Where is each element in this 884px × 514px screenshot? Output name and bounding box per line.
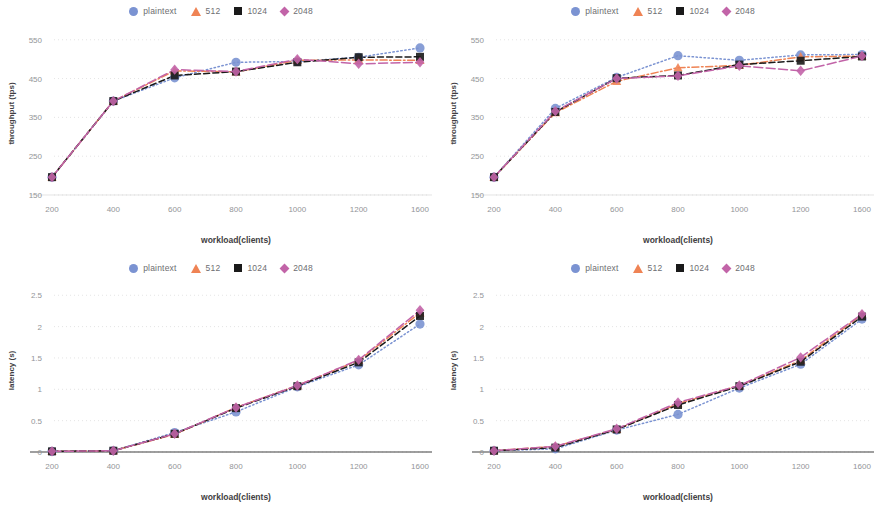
chart-panel-bottom-left: plaintext51210242048 00.511.522.52004006… (0, 257, 442, 514)
legend-label: 1024 (247, 263, 267, 273)
legend-item-512[interactable]: 512 (191, 263, 221, 273)
data-point-1024 (797, 57, 805, 65)
series-line-1024 (52, 316, 420, 451)
chart-panel-top-right: plaintext51210242048 1502503504505502004… (442, 0, 884, 257)
x-tick-label: 600 (168, 462, 182, 471)
y-axis-title: latency (s) (7, 350, 16, 390)
y-tick-label: 2.5 (473, 291, 485, 300)
x-tick-label: 800 (671, 205, 685, 214)
legend-item-1024[interactable]: 1024 (676, 6, 709, 16)
x-axis-title: workload(clients) (200, 235, 271, 245)
plot-area-bottom-right: 00.511.522.5200400600800100012001600work… (442, 275, 884, 514)
legend-label: 2048 (735, 263, 755, 273)
diamond-marker (280, 6, 290, 16)
y-tick-label: 2.5 (31, 291, 43, 300)
series-line-512 (494, 315, 862, 451)
legend-item-2048[interactable]: 2048 (281, 6, 313, 16)
circle-marker (129, 264, 138, 273)
x-tick-label: 1600 (411, 205, 429, 214)
data-point-plaintext (673, 51, 682, 60)
x-tick-label: 400 (549, 462, 563, 471)
square-marker (676, 7, 684, 15)
legend-label: 2048 (735, 6, 755, 16)
legend-label: plaintext (585, 263, 618, 273)
legend-item-2048[interactable]: 2048 (723, 263, 755, 273)
chart-svg-bottom-right: 00.511.522.5200400600800100012001600work… (442, 275, 884, 514)
data-point-plaintext (673, 410, 682, 419)
y-tick-label: 0 (480, 448, 485, 457)
y-tick-label: 350 (29, 113, 43, 122)
x-tick-label: 1200 (350, 462, 368, 471)
chart-panel-top-left: plaintext51210242048 1502503504505502004… (0, 0, 442, 257)
chart-svg-bottom-left: 00.511.522.5200400600800100012001600work… (0, 275, 442, 514)
legend-item-1024[interactable]: 1024 (676, 263, 709, 273)
triangle-marker (191, 264, 201, 273)
legend-item-512[interactable]: 512 (633, 263, 663, 273)
x-tick-label: 200 (487, 462, 501, 471)
legend-label: 512 (206, 6, 221, 16)
plot-area-top-left: 150250350450550200400600800100012001600w… (0, 18, 442, 257)
x-tick-label: 1000 (288, 205, 306, 214)
series-line-2048 (494, 314, 862, 451)
x-tick-label: 1000 (288, 462, 306, 471)
y-tick-label: 250 (471, 152, 485, 161)
triangle-marker (191, 7, 201, 16)
legend-label: 512 (206, 263, 221, 273)
legend-label: 512 (648, 263, 663, 273)
legend-label: 1024 (689, 263, 709, 273)
y-tick-label: 150 (29, 191, 43, 200)
y-axis-title: throughput (tps) (449, 82, 458, 145)
legend-bottom-right: plaintext51210242048 (442, 263, 884, 273)
legend-item-512[interactable]: 512 (633, 6, 663, 16)
legend-label: 2048 (293, 6, 313, 16)
x-tick-label: 800 (229, 462, 243, 471)
legend-top-left: plaintext51210242048 (0, 6, 442, 16)
plot-area-top-right: 150250350450550200400600800100012001600w… (442, 18, 884, 257)
x-tick-label: 1200 (792, 205, 810, 214)
legend-item-plaintext[interactable]: plaintext (571, 263, 618, 273)
y-tick-label: 0.5 (31, 417, 43, 426)
circle-marker (571, 7, 580, 16)
chart-panel-bottom-right: plaintext51210242048 00.511.522.52004006… (442, 257, 884, 514)
y-tick-label: 250 (29, 152, 43, 161)
legend-label: 1024 (247, 6, 267, 16)
x-tick-label: 600 (168, 205, 182, 214)
plot-area-bottom-left: 00.511.522.5200400600800100012001600work… (0, 275, 442, 514)
y-axis-title: latency (s) (449, 350, 458, 390)
legend-item-plaintext[interactable]: plaintext (571, 6, 618, 16)
legend-item-512[interactable]: 512 (191, 6, 221, 16)
legend-item-plaintext[interactable]: plaintext (129, 263, 176, 273)
y-tick-label: 0 (38, 448, 43, 457)
y-tick-label: 1.5 (31, 354, 43, 363)
x-tick-label: 1200 (792, 462, 810, 471)
triangle-marker (633, 7, 643, 16)
x-axis-title: workload(clients) (642, 492, 713, 502)
x-tick-label: 200 (487, 205, 501, 214)
legend-item-1024[interactable]: 1024 (234, 6, 267, 16)
y-tick-label: 2 (38, 323, 43, 332)
square-marker (676, 264, 684, 272)
series-line-512 (52, 60, 420, 177)
legend-item-plaintext[interactable]: plaintext (129, 6, 176, 16)
x-axis-title: workload(clients) (642, 235, 713, 245)
y-tick-label: 450 (471, 75, 485, 84)
x-tick-label: 1600 (853, 205, 871, 214)
square-marker (234, 264, 242, 272)
diamond-marker (280, 263, 290, 273)
legend-label: 1024 (689, 6, 709, 16)
legend-item-1024[interactable]: 1024 (234, 263, 267, 273)
x-tick-label: 800 (671, 462, 685, 471)
y-tick-label: 350 (471, 113, 485, 122)
chart-svg-top-right: 150250350450550200400600800100012001600w… (442, 18, 884, 257)
x-tick-label: 200 (45, 205, 59, 214)
legend-bottom-left: plaintext51210242048 (0, 263, 442, 273)
legend-label: 2048 (293, 263, 313, 273)
data-point-plaintext (415, 43, 424, 52)
legend-item-2048[interactable]: 2048 (723, 6, 755, 16)
y-tick-label: 2 (480, 323, 485, 332)
series-line-plaintext (494, 319, 862, 451)
legend-item-2048[interactable]: 2048 (281, 263, 313, 273)
x-tick-label: 1600 (411, 462, 429, 471)
y-tick-label: 0.5 (473, 417, 485, 426)
legend-label: 512 (648, 6, 663, 16)
